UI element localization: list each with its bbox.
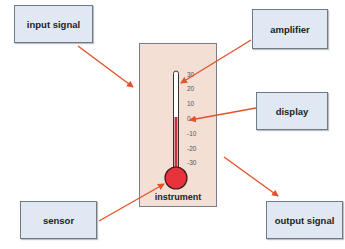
thermometer <box>165 71 187 189</box>
arrow-sensor-to-bulb <box>99 184 164 221</box>
diagram-graphics <box>0 0 345 249</box>
thermometer-bulb <box>165 167 187 189</box>
arrow-amplifier-to-tube <box>181 40 251 83</box>
arrow-instrument-to-output <box>224 157 278 196</box>
mercury-column <box>175 117 178 173</box>
arrow-display-to-scale <box>190 108 256 120</box>
arrow-input-to-instrument <box>78 46 133 87</box>
